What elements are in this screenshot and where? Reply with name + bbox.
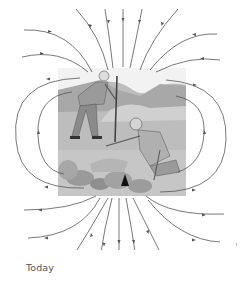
edge-mark (236, 243, 237, 246)
field-arrows-top (40, 18, 204, 60)
scene-illustration (58, 68, 186, 196)
caption-text: Today (26, 262, 54, 273)
field-lines-top (22, 9, 220, 72)
field-lines-bottom (24, 196, 224, 250)
magnetic-field-illustration (0, 0, 240, 250)
field-arrows-bottom (38, 209, 206, 247)
